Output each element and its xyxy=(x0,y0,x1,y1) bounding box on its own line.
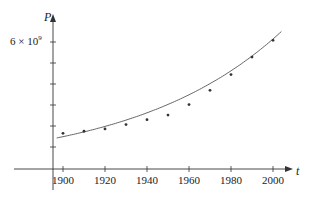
x-axis-arrow-icon xyxy=(285,166,293,172)
data-point xyxy=(209,89,212,92)
y-axis-label: P xyxy=(43,10,52,24)
data-point xyxy=(167,114,170,117)
data-point xyxy=(104,128,107,131)
fit-curve xyxy=(57,32,282,139)
population-chart: 190019201940196019802000 P t 6 × 109 xyxy=(0,0,315,200)
x-tick-label: 1900 xyxy=(52,174,75,186)
x-tick-label: 1940 xyxy=(136,174,159,186)
data-point xyxy=(188,103,191,106)
x-tick-label: 1920 xyxy=(94,174,117,186)
data-point xyxy=(251,56,254,59)
x-tick-label: 1960 xyxy=(178,174,201,186)
x-axis-label: t xyxy=(296,164,300,178)
data-point xyxy=(230,73,233,76)
x-tick-label: 1980 xyxy=(220,174,243,186)
y-tick-label-6e9: 6 × 109 xyxy=(10,34,42,47)
data-point xyxy=(83,130,86,133)
data-points xyxy=(62,39,275,135)
data-point xyxy=(146,118,149,121)
x-tick-label: 2000 xyxy=(262,174,285,186)
data-point xyxy=(62,132,65,135)
data-point xyxy=(272,39,275,42)
data-point xyxy=(125,123,128,126)
